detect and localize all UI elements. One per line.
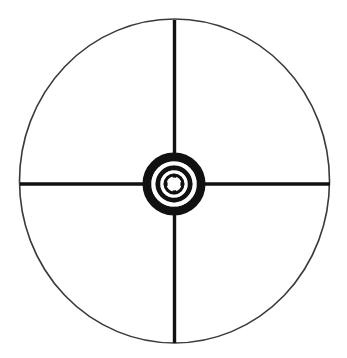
center-dot bbox=[168, 178, 181, 191]
reticle-drawing: Scope reticle with crosshairs and concen… bbox=[0, 0, 347, 358]
bullseye-rings bbox=[147, 157, 201, 211]
reticle-canvas: Scope reticle with crosshairs and concen… bbox=[0, 0, 347, 358]
